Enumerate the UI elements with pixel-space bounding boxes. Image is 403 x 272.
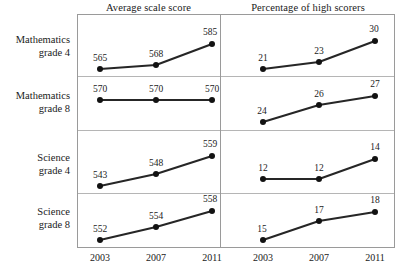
value-label-2011: 558: [203, 194, 217, 204]
data-point-2003[interactable]: [97, 66, 103, 72]
data-point-2003[interactable]: [97, 237, 103, 243]
value-label-2011: 18: [370, 195, 380, 205]
row-label-science-grade-8: Science grade 8: [0, 206, 70, 231]
series-line: [263, 212, 375, 240]
value-label-2011: 27: [370, 79, 380, 89]
panel-mathematics-grade-8-percentage-high-scorers: 24 26 27: [220, 76, 395, 130]
data-point-2003[interactable]: [97, 97, 103, 103]
data-point-2003[interactable]: [260, 66, 266, 72]
panel-science-grade-4-percentage-high-scorers: 12 12 14: [220, 130, 395, 193]
row-label-line-1: Mathematics: [0, 90, 70, 103]
value-label-2011: 570: [205, 84, 219, 94]
value-label-2007: 548: [149, 158, 163, 168]
row-label-mathematics-grade-4: Mathematics grade 4: [0, 34, 70, 59]
data-point-2007[interactable]: [316, 218, 322, 224]
panel-science-grade-8-percentage-high-scorers: 15 17 18: [220, 193, 395, 248]
row-label-line-1: Mathematics: [0, 34, 70, 47]
row-label-line-2: grade 8: [0, 103, 70, 116]
data-point-2007[interactable]: [153, 171, 159, 177]
value-label-2011: 14: [370, 142, 380, 152]
column-header-average-scale-score: Average scale score: [77, 1, 220, 14]
data-point-2007[interactable]: [153, 62, 159, 68]
row-label-line-2: grade 4: [0, 47, 70, 60]
x-tick-right-2011: 2011: [365, 252, 385, 264]
data-point-2007[interactable]: [153, 97, 159, 103]
data-point-2011[interactable]: [209, 208, 215, 214]
trends-small-multiples-figure: Average scale score Percentage of high s…: [0, 0, 403, 272]
data-point-2003[interactable]: [260, 176, 266, 182]
x-tick-left-2011: 2011: [202, 252, 222, 264]
x-tick-left-2003: 2003: [90, 252, 110, 264]
data-point-2003[interactable]: [97, 183, 103, 189]
data-point-2011[interactable]: [372, 38, 378, 44]
series-line: [263, 96, 375, 122]
row-label-line-1: Science: [0, 152, 70, 165]
value-label-2003: 570: [93, 84, 107, 94]
data-point-2011[interactable]: [372, 93, 378, 99]
value-label-2003: 15: [257, 224, 267, 234]
value-label-2007: 570: [149, 84, 163, 94]
data-point-2007[interactable]: [316, 59, 322, 65]
data-point-2011[interactable]: [209, 41, 215, 47]
row-label-line-1: Science: [0, 206, 70, 219]
row-label-line-2: grade 4: [0, 165, 70, 178]
x-tick-right-2007: 2007: [309, 252, 329, 264]
value-label-2011: 585: [203, 27, 217, 37]
data-point-2007[interactable]: [316, 176, 322, 182]
panel-mathematics-grade-4-percentage-high-scorers: 21 23 30: [220, 15, 395, 76]
column-header-percentage-high-scorers: Percentage of high scorers: [220, 1, 396, 14]
data-point-2007[interactable]: [316, 102, 322, 108]
data-point-2011[interactable]: [209, 153, 215, 159]
value-label-2007: 568: [149, 49, 163, 59]
value-label-2007: 12: [314, 163, 324, 173]
data-point-2003[interactable]: [260, 237, 266, 243]
value-label-2003: 543: [93, 170, 107, 180]
value-label-2011: 30: [369, 24, 379, 34]
data-point-2011[interactable]: [372, 209, 378, 215]
panel-science-grade-8-average-scale-score: 552 554 558: [77, 193, 219, 248]
x-tick-left-2007: 2007: [146, 252, 166, 264]
data-point-2003[interactable]: [260, 119, 266, 125]
row-label-science-grade-4: Science grade 4: [0, 152, 70, 177]
value-label-2003: 21: [258, 53, 268, 63]
value-label-2007: 554: [149, 211, 163, 221]
value-label-2003: 12: [258, 163, 268, 173]
value-label-2007: 26: [314, 89, 324, 99]
data-point-2007[interactable]: [153, 224, 159, 230]
value-label-2003: 552: [93, 224, 107, 234]
data-point-2011[interactable]: [372, 156, 378, 162]
value-label-2007: 23: [314, 46, 324, 56]
value-label-2007: 17: [314, 205, 324, 215]
series-svg: [220, 193, 395, 248]
value-label-2003: 565: [93, 53, 107, 63]
data-point-2011[interactable]: [209, 97, 215, 103]
panel-science-grade-4-average-scale-score: 543 548 559: [77, 130, 219, 193]
series-svg: [220, 130, 395, 193]
x-tick-right-2003: 2003: [253, 252, 273, 264]
series-svg: [220, 76, 395, 130]
panel-mathematics-grade-8-average-scale-score: 570 570 570: [77, 76, 219, 130]
row-label-mathematics-grade-8: Mathematics grade 8: [0, 90, 70, 115]
row-label-line-2: grade 8: [0, 219, 70, 232]
value-label-2003: 24: [257, 106, 267, 116]
value-label-2011: 559: [203, 139, 217, 149]
panel-mathematics-grade-4-average-scale-score: 565 568 585: [77, 15, 219, 76]
series-svg: [77, 15, 219, 76]
